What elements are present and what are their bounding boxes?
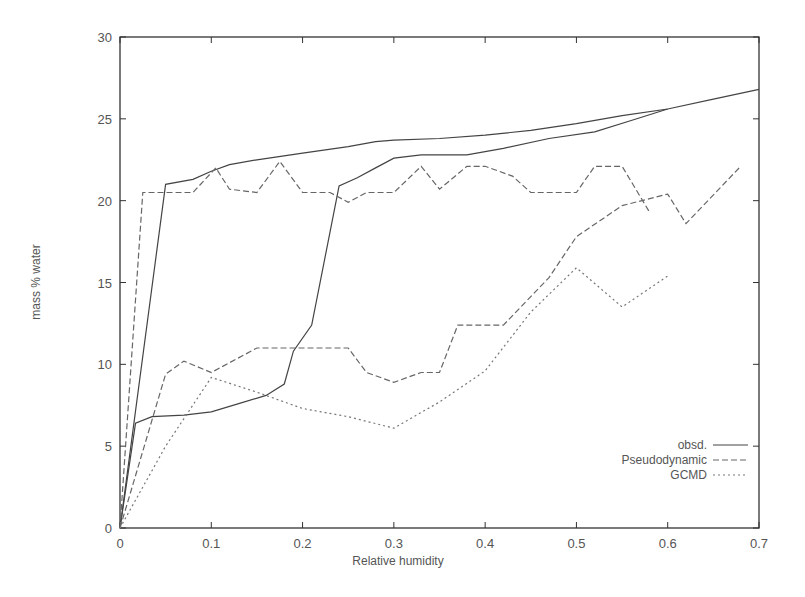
- x-tick-label: 0.4: [476, 536, 494, 551]
- legend: obsd.PseudodynamicGCMD: [622, 438, 748, 482]
- y-tick-label: 30: [98, 30, 112, 45]
- x-tick-label: 0.5: [567, 536, 585, 551]
- x-tick-label: 0.7: [750, 536, 768, 551]
- x-tick-label: 0.2: [294, 536, 312, 551]
- legend-label: GCMD: [670, 468, 707, 482]
- x-tick-label: 0: [116, 536, 123, 551]
- x-tick-label: 0.1: [202, 536, 220, 551]
- y-tick-label: 10: [98, 357, 112, 372]
- y-tick-label: 15: [98, 276, 112, 291]
- series-pseudodynamic-upper: [120, 161, 650, 528]
- series-pseudodynamic-lower: [120, 166, 741, 528]
- x-axis-title: Relative humidity: [352, 554, 443, 568]
- series-gcmd-main: [120, 268, 668, 528]
- y-tick-label: 5: [105, 439, 112, 454]
- y-axis-title: mass % water: [29, 244, 43, 319]
- y-tick-label: 25: [98, 112, 112, 127]
- legend-label: Pseudodynamic: [622, 453, 707, 467]
- x-tick-label: 0.3: [385, 536, 403, 551]
- y-tick-label: 20: [98, 194, 112, 209]
- chart-canvas: 00.10.20.30.40.50.60.7 051015202530 Rela…: [0, 0, 805, 597]
- legend-label: obsd.: [678, 438, 707, 452]
- x-tick-label: 0.6: [659, 536, 677, 551]
- y-tick-label: 0: [105, 521, 112, 536]
- series-obsd-lower: [120, 109, 668, 528]
